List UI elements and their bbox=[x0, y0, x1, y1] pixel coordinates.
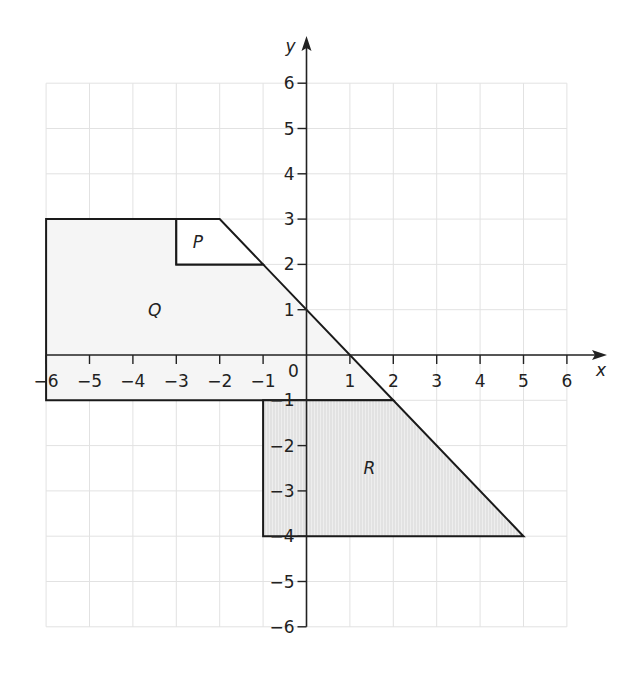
x-tick-label: 1 bbox=[344, 371, 355, 391]
shape-label-p: P bbox=[193, 232, 204, 252]
y-tick-label: 1 bbox=[284, 300, 295, 320]
coordinate-plane: −6−5−4−3−2−1123456654321−1−2−3−4−5−60xy … bbox=[0, 0, 635, 674]
x-tick-label: −3 bbox=[164, 371, 189, 391]
x-tick-label: −1 bbox=[251, 371, 276, 391]
y-tick-label: −2 bbox=[269, 436, 294, 456]
y-tick-label: 2 bbox=[284, 254, 295, 274]
x-tick-label: −4 bbox=[120, 371, 145, 391]
x-tick-label: 6 bbox=[561, 371, 572, 391]
x-tick-label: −5 bbox=[77, 371, 102, 391]
shape-r bbox=[263, 400, 523, 536]
x-axis-label: x bbox=[595, 360, 607, 380]
origin-label: 0 bbox=[288, 361, 299, 381]
x-tick-label: 5 bbox=[518, 371, 529, 391]
y-tick-label: 6 bbox=[284, 73, 295, 93]
y-tick-label: −3 bbox=[269, 481, 294, 501]
x-tick-label: 4 bbox=[475, 371, 486, 391]
y-tick-label: −5 bbox=[269, 572, 294, 592]
x-tick-label: −2 bbox=[207, 371, 232, 391]
y-tick-label: 3 bbox=[284, 209, 295, 229]
y-tick-label: −4 bbox=[269, 526, 294, 546]
x-tick-label: 3 bbox=[431, 371, 442, 391]
y-tick-label: −6 bbox=[269, 617, 294, 637]
y-tick-label: 5 bbox=[284, 119, 295, 139]
y-tick-label: 4 bbox=[284, 164, 295, 184]
shape-p bbox=[176, 219, 263, 264]
shape-label-r: R bbox=[364, 458, 376, 478]
y-tick-label: −1 bbox=[269, 390, 294, 410]
x-tick-label: 2 bbox=[388, 371, 399, 391]
y-axis-label: y bbox=[284, 36, 296, 56]
shape-label-q: Q bbox=[148, 300, 161, 320]
x-tick-label: −6 bbox=[34, 371, 59, 391]
